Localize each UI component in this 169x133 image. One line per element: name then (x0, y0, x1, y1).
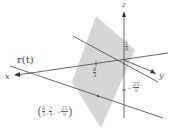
paren-close: ) (68, 105, 73, 118)
x-axis-label: x (5, 73, 10, 81)
y-tick-den: 9 (125, 47, 128, 52)
y-axis-arrow (150, 69, 156, 74)
plane (72, 16, 135, 128)
z-axis-label: z (122, 2, 126, 9)
sep: , (46, 109, 48, 115)
py-den: 9 (49, 112, 52, 117)
x-axis-arrow (14, 72, 20, 77)
z-tick-label: − 25 9 (127, 82, 139, 93)
px-den: 3 (42, 112, 45, 117)
z-tick-den: 9 (135, 88, 138, 93)
pz-den: 9 (63, 112, 66, 117)
y-axis-label: y (159, 72, 164, 80)
x-tick-label: 8 3 (93, 67, 96, 78)
z-tick-sign: − (127, 85, 132, 91)
y-tick-label: 1 9 (125, 41, 128, 52)
diagram-canvas (0, 0, 169, 133)
x-tick-den: 3 (93, 73, 96, 78)
point-label: ( 83 , 19 , − 259 ) (37, 105, 73, 118)
z-axis-arrow (122, 11, 126, 17)
curve-label: r(t) (17, 55, 34, 65)
sep: , (53, 109, 55, 115)
intersection-point (97, 95, 99, 97)
